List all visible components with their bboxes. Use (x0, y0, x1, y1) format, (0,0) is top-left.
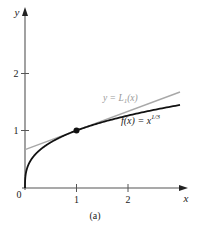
y-axis-arrow-icon (22, 7, 28, 16)
x-tick-label-1: 1 (74, 194, 79, 205)
figure-caption: (a) (89, 210, 100, 222)
x-axis-label: x (183, 192, 189, 204)
y-tick-label-2: 2 (14, 68, 19, 79)
y-tick-label-1: 1 (14, 125, 19, 136)
origin-label: 0 (17, 189, 22, 200)
x-tick-label-2: 2 (126, 194, 131, 205)
tangent-line-label: y = L1(x) (102, 93, 138, 105)
function-label: f(x) = x1/3 (121, 113, 161, 127)
x-axis-arrow-icon (179, 185, 188, 191)
tangent-point (74, 128, 80, 134)
y-axis-label: y (14, 6, 20, 18)
chart-canvas: 1 2 1 2 0 x y y = L1(x) f(x) = x1/3 (a) (0, 0, 200, 225)
